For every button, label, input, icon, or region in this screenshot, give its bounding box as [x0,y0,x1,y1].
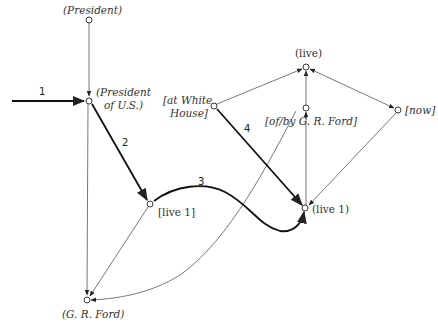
node-president-us [86,98,92,104]
step-label-1: 1 [39,86,45,97]
step-label-2: 2 [122,137,128,148]
label-now: [now] [405,104,435,116]
node-live1-right [302,205,308,211]
step-label-3: 3 [198,176,204,187]
label-president-us-line2: of U.S.) [104,99,143,111]
label-live1-right: (live 1) [312,203,349,215]
node-president [86,17,92,23]
label-of-by-ford: [of/by G. R. Ford] [265,115,357,127]
semantic-network-diagram [0,0,438,326]
node-live [303,64,309,70]
step-label-4: 4 [244,123,250,134]
edge-whitehouse-to-live [217,69,302,104]
node-gr-ford [84,297,90,303]
edge-live1-to-ford [90,207,148,296]
label-at-white-house-line2: House] [170,107,208,119]
edge-step2 [92,104,147,200]
label-president-us-line1: (President [96,86,151,98]
label-at-white-house-line1: [at White [163,94,212,106]
node-of-by-ford [303,105,309,111]
edge-live-to-now [310,69,394,108]
node-now [395,107,401,113]
edge-president-us-to-ford [87,104,88,295]
label-live1-left: [live 1] [158,206,195,218]
node-live1-left [147,201,153,207]
label-president: (President) [63,4,122,16]
label-live: (live) [295,47,322,59]
label-gr-ford: (G. R. Ford) [62,308,124,320]
